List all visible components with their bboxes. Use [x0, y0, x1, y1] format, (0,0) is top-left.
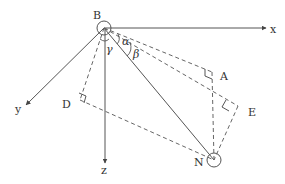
- label-A: A: [219, 70, 229, 83]
- label-N: N: [194, 156, 204, 169]
- dashed-DN: [80, 100, 214, 160]
- label-x-axis: x: [270, 23, 277, 36]
- label-B: B: [93, 9, 101, 22]
- label-y-axis: y: [14, 103, 22, 116]
- line-BN: [104, 28, 214, 160]
- right-angle-E: [222, 100, 229, 111]
- label-E: E: [248, 106, 256, 119]
- label-D: D: [62, 98, 71, 111]
- y-axis: [26, 28, 104, 105]
- dashed-AN: [212, 72, 214, 160]
- dashed-BA: [104, 28, 212, 72]
- label-beta: β: [132, 48, 139, 61]
- label-alpha: α: [122, 35, 130, 48]
- dashed-EN: [214, 106, 238, 160]
- label-z-axis: z: [101, 164, 107, 177]
- label-gamma: γ: [106, 43, 113, 56]
- geometry-diagram: B N A D E x y z α β γ: [0, 0, 285, 184]
